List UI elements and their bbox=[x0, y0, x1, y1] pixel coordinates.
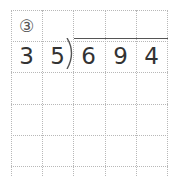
grid-line bbox=[105, 10, 106, 176]
grid-line bbox=[11, 166, 168, 167]
grid-line bbox=[167, 10, 168, 176]
divisor-digit: 3 bbox=[11, 41, 42, 72]
grid-line bbox=[73, 10, 74, 176]
grid-line bbox=[11, 135, 168, 136]
worksheet-grid: ③ 3 5 6 9 4 bbox=[11, 10, 168, 176]
dividend-digit: 4 bbox=[136, 41, 167, 72]
grid-line bbox=[11, 72, 168, 73]
division-bracket-icon bbox=[66, 38, 76, 69]
grid-line bbox=[136, 10, 137, 176]
dividend-digit: 9 bbox=[105, 41, 136, 72]
dividend-digit: 6 bbox=[73, 41, 104, 72]
problem-number: ③ bbox=[11, 10, 42, 41]
division-bar bbox=[74, 38, 168, 39]
grid-line bbox=[42, 10, 43, 176]
grid-line bbox=[11, 104, 168, 105]
